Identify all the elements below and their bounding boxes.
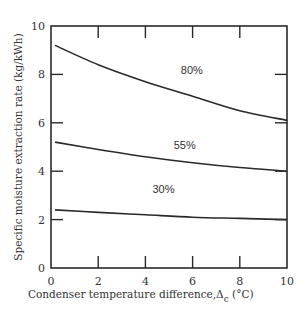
x-tick-label: 10: [280, 275, 294, 288]
x-tick-label: 6: [189, 275, 196, 288]
y-tick-label: 4: [38, 165, 45, 178]
y-tick-label: 0: [38, 262, 45, 275]
chart: 02468100246810 80%55%30% Specific moistu…: [0, 0, 308, 320]
x-axis-label: Condenser temperature difference,Δc (°C): [28, 288, 254, 304]
y-tick-label: 2: [38, 214, 45, 227]
x-tick-label: 4: [142, 275, 149, 288]
curve-80pct: [55, 45, 287, 120]
y-axis-label: Specific moisture extraction rate (kg/kW…: [12, 33, 24, 260]
x-tick-label: 2: [95, 275, 102, 288]
series-label-30pct: 30%: [152, 183, 174, 195]
x-axis-label-main: Condenser temperature difference,Δ: [28, 288, 224, 300]
y-tick-label: 10: [31, 20, 45, 33]
axis-ticks: 02468100246810: [31, 20, 294, 288]
curve-30pct: [55, 210, 287, 220]
y-tick-label: 8: [38, 68, 45, 81]
x-tick-label: 0: [48, 275, 55, 288]
series-label-55pct: 55%: [174, 139, 196, 151]
y-tick-label: 6: [38, 117, 45, 130]
series-label-80pct: 80%: [181, 64, 203, 76]
x-axis-label-unit: (°C): [229, 288, 254, 300]
curve-55pct: [55, 142, 287, 171]
x-tick-label: 8: [236, 275, 243, 288]
series-labels: 80%55%30%: [152, 64, 203, 195]
